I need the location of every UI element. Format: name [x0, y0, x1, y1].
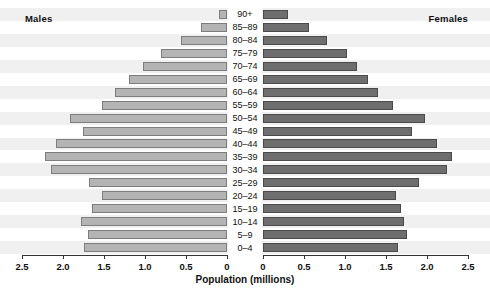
- female-bar: [263, 230, 407, 239]
- age-group-label: 5–9: [228, 230, 262, 240]
- axis-tick: [63, 255, 64, 259]
- male-bar: [102, 191, 227, 200]
- male-bar: [51, 165, 227, 174]
- age-group-label: 65–69: [228, 74, 262, 84]
- females-series-label: Females: [429, 13, 468, 24]
- female-bar: [263, 191, 396, 200]
- x-axis-title: Population (millions): [0, 274, 490, 285]
- age-group-label: 15–19: [228, 204, 262, 214]
- male-bar: [129, 75, 227, 84]
- axis-tick: [263, 255, 264, 259]
- population-pyramid-chart: Males Females 90+85–8980–8475–7970–7465–…: [0, 0, 490, 301]
- age-group-label: 30–34: [228, 165, 262, 175]
- male-bar: [181, 36, 227, 45]
- age-group-label: 25–29: [228, 178, 262, 188]
- age-group-label: 70–74: [228, 61, 262, 71]
- age-group-label: 10–14: [228, 217, 262, 227]
- age-group-label: 85–89: [228, 22, 262, 32]
- age-group-label: 0–4: [228, 243, 262, 253]
- female-bar: [263, 127, 412, 136]
- age-group-label: 50–54: [228, 113, 262, 123]
- axis-tick-label: 1.0: [130, 261, 160, 272]
- axis-tick: [227, 255, 228, 259]
- axis-tick-label: 1.5: [371, 261, 401, 272]
- male-bar: [70, 114, 227, 123]
- axis-tick: [145, 255, 146, 259]
- axis-tick-label: 2.5: [7, 261, 37, 272]
- female-bar: [263, 243, 398, 252]
- female-bar: [263, 165, 447, 174]
- male-bar: [89, 178, 227, 187]
- age-group-label: 75–79: [228, 48, 262, 58]
- male-bar: [219, 10, 227, 19]
- male-bar: [102, 101, 227, 110]
- axis-line: [22, 255, 227, 256]
- axis-tick-label: 2.0: [412, 261, 442, 272]
- male-bar: [45, 152, 227, 161]
- female-bar: [263, 139, 437, 148]
- male-bar: [143, 62, 227, 71]
- male-bar: [201, 23, 227, 32]
- axis-tick-label: 0: [248, 261, 278, 272]
- axis-tick-label: 0.5: [171, 261, 201, 272]
- axis-tick: [22, 255, 23, 259]
- male-bar: [92, 204, 227, 213]
- female-bar: [263, 10, 288, 19]
- female-bar: [263, 62, 357, 71]
- age-group-label: 60–64: [228, 87, 262, 97]
- male-bar: [84, 243, 227, 252]
- male-bar: [115, 88, 227, 97]
- male-bar: [56, 139, 227, 148]
- male-bar: [161, 49, 227, 58]
- female-bar: [263, 178, 419, 187]
- axis-tick-label: 2.5: [453, 261, 483, 272]
- axis-tick-label: 0: [212, 261, 242, 272]
- axis-tick-label: 1.5: [89, 261, 119, 272]
- axis-tick-label: 0.5: [289, 261, 319, 272]
- female-bar: [263, 23, 309, 32]
- age-group-label: 40–44: [228, 139, 262, 149]
- axis-tick: [345, 255, 346, 259]
- female-bar: [263, 88, 378, 97]
- axis-tick-label: 2.0: [48, 261, 78, 272]
- axis-tick: [104, 255, 105, 259]
- female-bar: [263, 152, 452, 161]
- age-group-label: 20–24: [228, 191, 262, 201]
- age-group-label: 55–59: [228, 100, 262, 110]
- age-group-label: 80–84: [228, 35, 262, 45]
- female-bar: [263, 75, 368, 84]
- female-bar: [263, 217, 404, 226]
- males-series-label: Males: [25, 13, 52, 24]
- axis-tick: [304, 255, 305, 259]
- male-bar: [88, 230, 227, 239]
- female-bar: [263, 114, 425, 123]
- age-group-label: 35–39: [228, 152, 262, 162]
- axis-tick-label: 1.0: [330, 261, 360, 272]
- age-group-label: 90+: [228, 9, 262, 19]
- axis-tick: [468, 255, 469, 259]
- axis-line: [263, 255, 468, 256]
- axis-tick: [386, 255, 387, 259]
- female-bar: [263, 36, 327, 45]
- female-bar: [263, 101, 393, 110]
- male-bar: [81, 217, 227, 226]
- axis-tick: [186, 255, 187, 259]
- axis-tick: [427, 255, 428, 259]
- female-bar: [263, 49, 347, 58]
- female-bar: [263, 204, 401, 213]
- male-bar: [83, 127, 227, 136]
- age-group-label: 45–49: [228, 126, 262, 136]
